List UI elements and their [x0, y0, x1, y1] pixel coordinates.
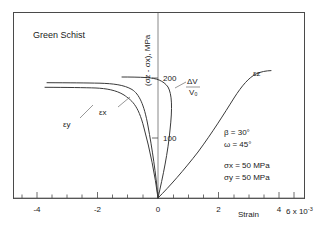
annotation-sigma-y: σy = 50 MPa	[224, 173, 270, 182]
x-tick-label-zero: 0	[156, 205, 161, 214]
curve-label-eps-x: εx	[99, 108, 107, 117]
strain-stress-chart: Green Schist (σz - σx), MPa 200 100 -4 -…	[0, 0, 320, 236]
curve-label-eps-z: εz	[253, 69, 261, 78]
chart-canvas: Green Schist (σz - σx), MPa 200 100 -4 -…	[0, 0, 320, 236]
curve-label-delta-v-denominator: V₀	[189, 88, 198, 97]
x-tick-label-minus4: -4	[33, 205, 41, 214]
curve-label-eps-y: εy	[63, 120, 71, 129]
x-tick-label-4: 4	[277, 205, 282, 214]
x-tick-label-2: 2	[216, 205, 221, 214]
annotation-omega: ω = 45°	[224, 140, 251, 149]
y-tick-label-200: 200	[163, 74, 177, 83]
annotation-beta: β = 30°	[224, 128, 250, 137]
y-axis-title: (σz - σx), MPa	[143, 34, 152, 86]
chart-title: Green Schist	[33, 30, 86, 40]
x-tick-label-minus2: -2	[94, 205, 102, 214]
curve-label-delta-v-numerator: ΔV	[187, 77, 198, 86]
y-tick-label-100: 100	[163, 134, 177, 143]
x-axis-title: Strain	[238, 210, 259, 219]
annotation-sigma-x: σx = 50 MPa	[224, 161, 270, 170]
